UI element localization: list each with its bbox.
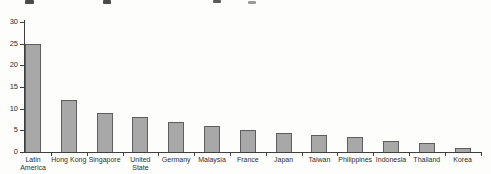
y-axis-tick (20, 130, 24, 131)
x-axis-label-line: Germany (162, 156, 191, 164)
x-axis-tick (230, 153, 231, 156)
cropped-title-fragment (25, 0, 34, 4)
x-axis-label-line: Taiwan (308, 156, 330, 164)
bar-germany (168, 122, 184, 152)
x-axis-label-line: Thailand (413, 156, 440, 164)
x-axis-label: Germany (162, 156, 191, 164)
x-axis-tick (445, 153, 446, 156)
x-axis-label-line: Latin (20, 156, 46, 164)
x-axis-label: Singapore (89, 156, 121, 164)
y-axis-tick (20, 152, 24, 153)
x-axis-label: Thailand (413, 156, 440, 164)
y-axis-label: 10 (1, 105, 18, 113)
x-axis-label-line: Malaysia (198, 156, 226, 164)
x-axis-label: Malaysia (198, 156, 226, 164)
x-axis-tick (87, 153, 88, 156)
x-axis-label: Philippines (338, 156, 372, 164)
y-axis-tick (20, 44, 24, 45)
bar-thailand (419, 143, 435, 152)
x-axis-label-line: Philippines (338, 156, 372, 164)
bar-korea (455, 148, 471, 152)
y-axis-label: 0 (1, 148, 18, 156)
x-axis-label: France (237, 156, 259, 164)
bar-philippines (347, 137, 363, 152)
x-axis-label: UnitedState (130, 156, 150, 171)
y-axis-label: 25 (1, 40, 18, 48)
y-axis-label: 30 (1, 18, 18, 26)
x-axis-label-line: Singapore (89, 156, 121, 164)
x-axis-tick (481, 153, 482, 156)
screenshot-root: LatinAmericaHong KongSingaporeUnitedStat… (0, 0, 491, 174)
x-axis-tick (302, 153, 303, 156)
x-axis-tick (194, 153, 195, 156)
x-axis-label: Taiwan (308, 156, 330, 164)
x-axis-label-line: Japan (274, 156, 293, 164)
x-axis-label-line: Indonesia (376, 156, 406, 164)
x-axis-tick (266, 153, 267, 156)
x-axis-label-line: France (237, 156, 259, 164)
cropped-title-fragment (213, 0, 221, 3)
x-axis-tick (123, 153, 124, 156)
x-axis-label-line: Hong Kong (51, 156, 86, 164)
y-axis-tick (20, 65, 24, 66)
x-axis-label: Japan (274, 156, 293, 164)
y-axis-tick (20, 87, 24, 88)
bar-united-state (132, 117, 148, 152)
bar-indonesia (383, 141, 399, 152)
x-axis-tick (158, 153, 159, 156)
y-axis-tick (20, 22, 24, 23)
y-axis-tick (20, 109, 24, 110)
x-axis-line (24, 152, 482, 153)
bar-france (240, 130, 256, 152)
bar-latin-america (25, 44, 41, 152)
x-axis-tick (373, 153, 374, 156)
cropped-title-fragment (103, 0, 111, 4)
cropped-title-fragment (248, 1, 256, 4)
x-axis-label-line: United (130, 156, 150, 164)
bar-singapore (97, 113, 113, 152)
x-axis-label: Indonesia (376, 156, 406, 164)
x-axis-label: LatinAmerica (20, 156, 46, 171)
x-axis-label-line: America (20, 164, 46, 172)
bar-hong-kong (61, 100, 77, 152)
x-axis-label: Korea (453, 156, 472, 164)
y-axis-label: 15 (1, 83, 18, 91)
bar-taiwan (311, 135, 327, 152)
x-axis-label-line: State (130, 164, 150, 172)
y-axis-label: 20 (1, 61, 18, 69)
x-axis-label-line: Korea (453, 156, 472, 164)
bar-malaysia (204, 126, 220, 152)
bar-japan (276, 133, 292, 153)
x-axis-label: Hong Kong (51, 156, 86, 164)
y-axis-label: 5 (1, 126, 18, 134)
x-axis-tick (409, 153, 410, 156)
